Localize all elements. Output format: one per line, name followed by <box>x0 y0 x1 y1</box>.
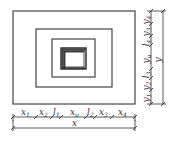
svg-text:x4: x4 <box>118 107 127 118</box>
svg-text:x3: x3 <box>99 107 108 118</box>
svg-text:l4: l4 <box>141 39 152 46</box>
svg-text:y3: y3 <box>141 27 152 37</box>
svg-text:x1: x1 <box>21 107 30 118</box>
right-total-dimension: y <box>153 9 165 106</box>
svg-text:x2: x2 <box>39 107 48 118</box>
svg-text:x: x <box>72 118 77 128</box>
core-column-rect <box>61 48 86 69</box>
svg-text:y2: y2 <box>141 81 152 91</box>
svg-text:y4: y4 <box>141 15 152 25</box>
svg-text:l2: l2 <box>87 107 94 118</box>
svg-text:y: y <box>153 57 163 64</box>
svg-text:l1: l1 <box>53 107 60 118</box>
svg-text:l3: l3 <box>141 71 152 78</box>
bottom-total-dimension: x <box>11 118 137 131</box>
svg-text:y1: y1 <box>141 94 152 104</box>
sub: 1 <box>26 111 30 118</box>
svg-text:xu: xu <box>70 107 79 118</box>
foundation-plan-diagram: x1 x2 l1 xu l2 x3 x4 x y4 y3 <box>0 0 177 142</box>
svg-text:yu: yu <box>141 54 152 64</box>
